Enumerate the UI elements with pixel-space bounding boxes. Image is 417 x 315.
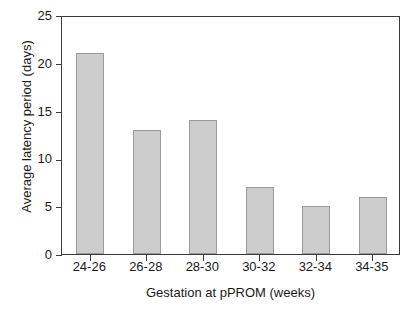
y-axis-tick-label: 0 — [26, 248, 52, 261]
x-axis-tick-label: 30-32 — [231, 259, 288, 275]
y-axis-tick-mark — [56, 64, 62, 65]
bar-chart-figure: Average latency period (days) 0510152025… — [0, 0, 417, 315]
y-axis-tick-label: 15 — [26, 105, 52, 118]
bar — [133, 130, 161, 254]
y-axis-tick-mark — [56, 16, 62, 17]
x-axis-tick-label: 26-28 — [118, 259, 175, 275]
bar — [246, 187, 274, 254]
y-axis-tick-label: 20 — [26, 57, 52, 70]
bar — [302, 206, 330, 254]
y-axis-tick-mark — [56, 255, 62, 256]
x-axis-tick-labels: 24-2626-2828-3030-3232-3434-35 — [61, 259, 400, 279]
x-axis-tick-label: 32-34 — [287, 259, 344, 275]
y-axis-tick-mark — [56, 160, 62, 161]
x-axis-tick-label: 24-26 — [61, 259, 118, 275]
y-axis-tick-labels: 0510152025 — [26, 0, 52, 315]
x-axis-title: Gestation at pPROM (weeks) — [61, 285, 400, 300]
y-axis-tick-label: 5 — [26, 200, 52, 213]
plot-area — [61, 16, 400, 255]
y-axis-tick-mark — [56, 112, 62, 113]
y-axis-tick-label: 10 — [26, 152, 52, 165]
y-axis-tick-mark — [56, 207, 62, 208]
x-axis-tick-label: 28-30 — [174, 259, 231, 275]
bar — [359, 197, 387, 254]
bar — [189, 120, 217, 254]
x-axis-tick-label: 34-35 — [344, 259, 401, 275]
y-axis-tick-label: 25 — [26, 9, 52, 22]
bar — [76, 53, 104, 254]
